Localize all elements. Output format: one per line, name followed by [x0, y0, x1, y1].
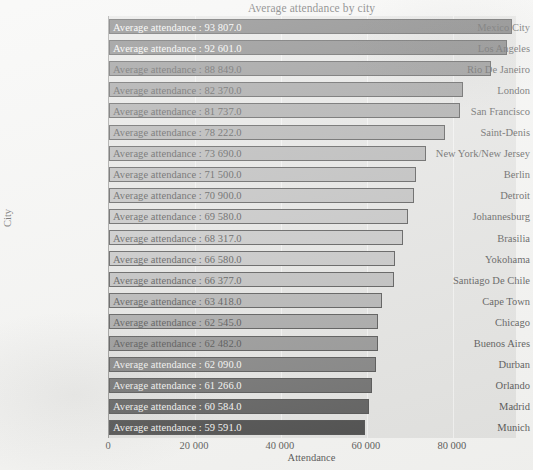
- x-axis-tick-label: 80 000: [437, 440, 466, 451]
- gridline: [367, 16, 368, 438]
- bar[interactable]: [109, 103, 460, 118]
- bar[interactable]: [109, 230, 403, 245]
- y-axis-category-label: Detroit: [429, 190, 533, 201]
- bar[interactable]: [109, 125, 445, 140]
- plot-area: Average attendance : 93 807.0Average att…: [108, 16, 516, 438]
- bar[interactable]: [109, 357, 376, 372]
- y-axis-category-label: Buenos Aires: [429, 338, 533, 349]
- bar[interactable]: [109, 188, 414, 203]
- bar[interactable]: [109, 399, 369, 414]
- y-axis-category-label: Mexico City: [429, 21, 533, 32]
- bar-chart: Average attendance by city Average atten…: [0, 0, 533, 470]
- y-axis-category-label: Yokohama: [429, 253, 533, 264]
- y-axis-title: City: [2, 209, 13, 227]
- y-axis-category-label: San Francisco: [429, 105, 533, 116]
- bar[interactable]: [109, 378, 372, 393]
- y-axis-category-label: Rio De Janeiro: [429, 63, 533, 74]
- gridline: [453, 16, 454, 438]
- y-axis-category-label: Berlin: [429, 169, 533, 180]
- bar[interactable]: [109, 336, 378, 351]
- y-axis-category-label: Munich: [429, 422, 533, 433]
- chart-title: Average attendance by city: [108, 2, 515, 14]
- x-axis-tick-label: 0: [105, 440, 110, 451]
- x-axis-title: Attendance: [108, 452, 515, 463]
- bar[interactable]: [109, 293, 382, 308]
- bar[interactable]: [109, 146, 426, 161]
- bar[interactable]: [109, 272, 394, 287]
- y-axis-category-label: Cape Town: [429, 295, 533, 306]
- bar[interactable]: [109, 314, 378, 329]
- gridline: [195, 16, 196, 438]
- y-axis-category-label: London: [429, 84, 533, 95]
- bar[interactable]: [109, 82, 463, 97]
- bar[interactable]: [109, 209, 408, 224]
- x-axis-tick-label: 40 000: [265, 440, 294, 451]
- x-axis-tick-label: 60 000: [351, 440, 380, 451]
- y-axis-category-label: Chicago: [429, 316, 533, 327]
- y-axis-category-label: Santiago De Chile: [429, 274, 533, 285]
- y-axis-category-label: Orlando: [429, 380, 533, 391]
- bar[interactable]: [109, 420, 365, 435]
- bar[interactable]: [109, 167, 416, 182]
- y-axis-category-label: New York/New Jersey: [429, 148, 533, 159]
- y-axis-category-label: Madrid: [429, 401, 533, 412]
- y-axis-category-label: Durban: [429, 359, 533, 370]
- y-axis-category-label: Brasilia: [429, 232, 533, 243]
- x-axis-tick-label: 20 000: [180, 440, 209, 451]
- gridline: [281, 16, 282, 438]
- bar[interactable]: [109, 251, 395, 266]
- y-axis-category-label: Saint-Denis: [429, 127, 533, 138]
- y-axis-category-label: Johannesburg: [429, 211, 533, 222]
- y-axis-category-label: Los Angeles: [429, 42, 533, 53]
